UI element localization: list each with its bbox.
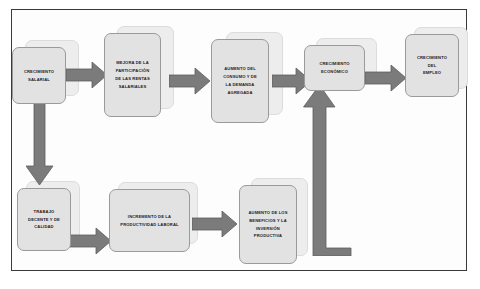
node-label-line: PARTICIPACIÓN xyxy=(116,67,150,75)
node-crecimiento-economico[interactable]: CRECIMIENTO ECONÓMICO xyxy=(304,45,365,91)
node-label-line: CRECIMIENTO xyxy=(24,68,54,76)
node-label-line: LA DEMANDA xyxy=(226,81,255,89)
node-label-line: TRABAJO xyxy=(34,208,55,216)
arrow-crecimiento-to-empleo xyxy=(365,65,407,91)
node-label-line: INVERSIÓN xyxy=(256,225,280,233)
node-label-line: SALARIALES xyxy=(119,83,147,91)
node-label-line: SALARIAL xyxy=(28,76,50,84)
node-label-line: INCREMENTO DE LA xyxy=(128,213,171,221)
node-label-line: AUMENTO DE LOS xyxy=(248,209,287,217)
arrow-productividad-to-beneficios xyxy=(192,211,238,237)
node-label-line: DECENTE Y DE xyxy=(28,216,60,224)
arrow-salarial-to-mejora xyxy=(66,62,108,88)
node-label-line: CRECIMIENTO xyxy=(417,54,447,62)
node-label-line: PRODUCTIVA xyxy=(254,232,282,240)
node-aumento-beneficios-inversion-productiva[interactable]: AUMENTO DE LOS BENEFICIOS Y LA INVERSIÓN… xyxy=(239,185,297,264)
arrow-trabajo-to-productividad xyxy=(70,228,112,254)
node-aumento-consumo-demanda-agregada[interactable]: AUMENTO DEL CONSUMO Y DE LA DEMANDA AGRE… xyxy=(211,39,269,123)
node-label-line: CALIDAD xyxy=(34,223,53,231)
node-label-line: CRECIMIENTO xyxy=(319,60,349,68)
node-crecimiento-del-empleo[interactable]: CRECIMIENTO DEL EMPLEO xyxy=(405,34,459,97)
arrow-salarial-to-trabajo xyxy=(26,100,54,186)
node-trabajo-decente-y-de-calidad[interactable]: TRABAJO DECENTE Y DE CALIDAD xyxy=(17,188,71,251)
node-label-line: EMPLEO xyxy=(423,69,441,77)
node-crecimiento-salarial[interactable]: CRECIMIENTO SALARIAL xyxy=(12,47,66,104)
node-label-line: AGREGADA xyxy=(227,89,252,97)
node-mejora-participacion-rentas-salariales[interactable]: MEJORA DE LA PARTICIPACIÓN DE LAS RENTAS… xyxy=(104,33,161,117)
node-label-line: DE LAS RENTAS xyxy=(115,75,150,83)
node-label-line: CONSUMO Y DE xyxy=(223,73,257,81)
node-label-line: BENEFICIOS Y LA xyxy=(249,217,287,225)
node-incremento-productividad-laboral[interactable]: INCREMENTO DE LA PRODUCTIVIDAD LABORAL xyxy=(109,189,190,252)
node-label-line: DEL xyxy=(428,62,437,70)
node-label-line: PRODUCTIVIDAD LABORAL xyxy=(120,221,178,229)
arrow-beneficios-to-crecimiento xyxy=(296,79,352,260)
node-label-line: MEJORA DE LA xyxy=(116,59,149,67)
arrow-mejora-to-consumo xyxy=(169,68,211,94)
node-label-line: ECONÓMICO xyxy=(321,68,348,76)
diagram-canvas: CRECIMIENTO SALARIAL MEJORA DE LA PARTIC… xyxy=(0,0,480,289)
node-label-line: AUMENTO DEL xyxy=(224,65,256,73)
